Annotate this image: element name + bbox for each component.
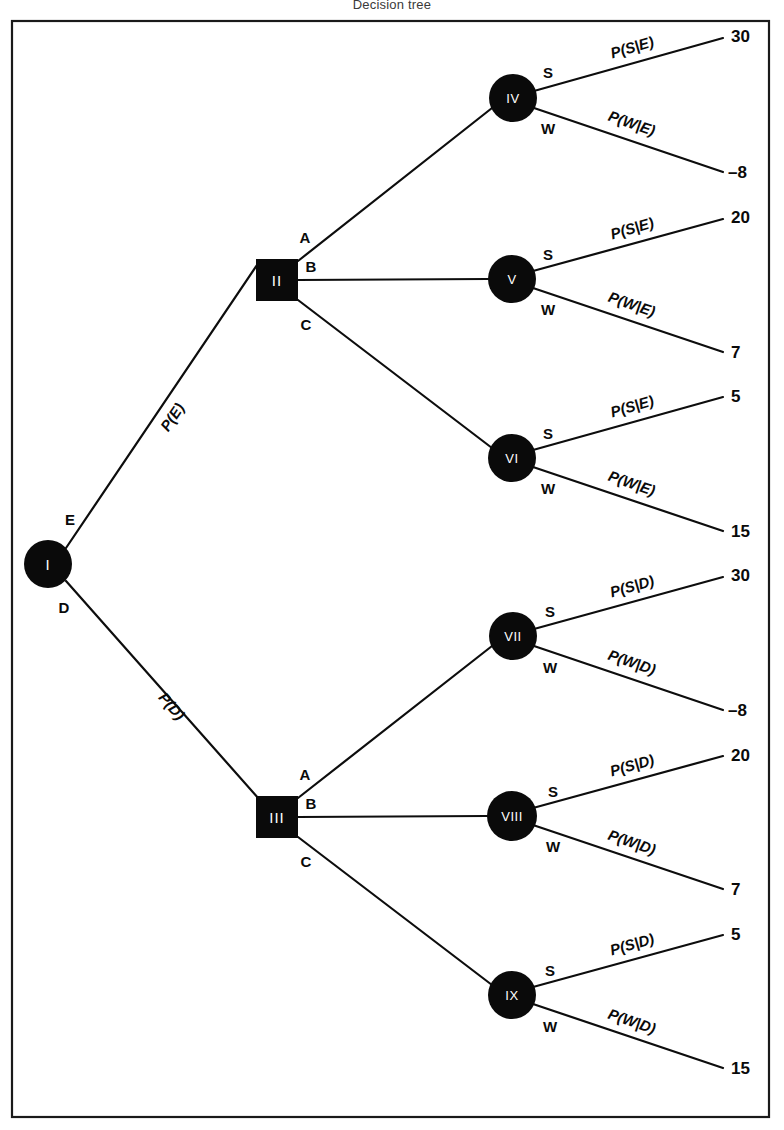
branch-I-to-II xyxy=(66,262,259,548)
edge-letter-VII-W: W xyxy=(543,659,558,676)
prob-label-P-E: P(E) xyxy=(157,400,188,434)
branch-II-to-IV xyxy=(298,108,492,261)
branch-II-to-V xyxy=(298,279,488,280)
edge-letter-VIII-S: S xyxy=(548,783,558,800)
payoff-V-S: 20 xyxy=(731,208,750,227)
prob-label-VIII-S: P(S|D) xyxy=(608,751,656,780)
node-VII-label: VII xyxy=(504,629,521,644)
node-VIII[interactable]: VIII xyxy=(487,791,537,841)
node-IX[interactable]: IX xyxy=(488,971,536,1019)
edge-letter-III-B: B xyxy=(306,795,317,812)
edge-letter-II-C: C xyxy=(301,316,312,333)
payoff-VI-S: 5 xyxy=(731,387,740,406)
edge-letter-VI-W: W xyxy=(541,480,556,497)
branch-III-to-VIII xyxy=(298,816,487,817)
prob-label-IX-S: P(S|D) xyxy=(608,930,656,959)
prob-label-IV-S: P(S|E) xyxy=(608,33,655,62)
prob-label-VI-S: P(S|E) xyxy=(608,392,655,421)
payoff-IV-W: –8 xyxy=(728,163,747,182)
node-VI[interactable]: VI xyxy=(488,434,536,482)
node-III-label: III xyxy=(269,809,285,826)
edge-letter-V-W: W xyxy=(541,301,556,318)
branch-III-to-VII xyxy=(298,646,492,798)
branch-II-to-VI xyxy=(298,300,492,448)
edge-letter-VI-S: S xyxy=(543,425,553,442)
edge-letter-IV-W: W xyxy=(541,120,556,137)
payoff-VII-S: 30 xyxy=(731,566,750,585)
payoff-V-W: 7 xyxy=(731,343,740,362)
edge-letter-D: D xyxy=(59,599,70,616)
edge-letter-IX-W: W xyxy=(543,1018,558,1035)
branch-lines xyxy=(66,38,723,1068)
payoff-VIII-W: 7 xyxy=(731,880,740,899)
payoff-IX-S: 5 xyxy=(731,925,740,944)
edge-letter-II-B: B xyxy=(306,258,317,275)
node-III[interactable]: III xyxy=(256,796,298,838)
edge-letter-II-A: A xyxy=(300,229,311,246)
decision-tree-figure: Decision tree xyxy=(0,0,784,1130)
payoff-VI-W: 15 xyxy=(731,522,750,541)
edge-letter-III-C: C xyxy=(301,853,312,870)
edge-letter-E: E xyxy=(65,511,75,528)
node-IV[interactable]: IV xyxy=(489,74,537,122)
payoff-IV-S: 30 xyxy=(731,27,750,46)
edge-letter-V-S: S xyxy=(543,246,553,263)
node-VIII-label: VIII xyxy=(501,809,523,824)
node-V[interactable]: V xyxy=(488,255,536,303)
prob-label-VII-S: P(S|D) xyxy=(608,572,656,601)
node-I-label: I xyxy=(45,556,50,573)
probability-labels: P(E) P(D) P(S|E) P(W|E) P(S|E) P(W|E) P(… xyxy=(155,33,658,1037)
nodes: I II III IV V VI xyxy=(24,74,537,1019)
node-II-label: II xyxy=(272,272,282,289)
prob-label-P-D: P(D) xyxy=(155,689,188,723)
node-II[interactable]: II xyxy=(256,259,298,301)
payoff-VII-W: –8 xyxy=(728,701,747,720)
payoff-VIII-S: 20 xyxy=(731,746,750,765)
node-V-label: V xyxy=(507,272,516,287)
node-VII[interactable]: VII xyxy=(489,612,537,660)
branch-I-to-III xyxy=(66,581,259,799)
edge-letter-VII-S: S xyxy=(545,603,555,620)
node-IX-label: IX xyxy=(505,988,518,1003)
node-I[interactable]: I xyxy=(24,540,72,588)
edge-letter-IV-S: S xyxy=(543,64,553,81)
edge-letters: E D A B C A B C S W S W S W S W S W S W xyxy=(59,64,561,1035)
prob-label-V-S: P(S|E) xyxy=(608,214,655,243)
edge-letter-IX-S: S xyxy=(545,962,555,979)
decision-tree-canvas: I II III IV V VI xyxy=(0,0,784,1130)
terminal-payoffs: 30 –8 20 7 5 15 30 –8 20 7 5 15 xyxy=(728,27,750,1078)
node-VI-label: VI xyxy=(505,451,518,466)
node-IV-label: IV xyxy=(506,91,519,106)
edge-letter-III-A: A xyxy=(300,766,311,783)
edge-letter-VIII-W: W xyxy=(546,838,561,855)
payoff-IX-W: 15 xyxy=(731,1059,750,1078)
branch-III-to-IX xyxy=(298,837,492,985)
